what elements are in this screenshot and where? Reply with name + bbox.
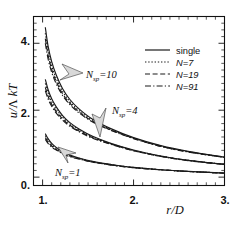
x-axis-title: r/D: [166, 203, 183, 217]
y-tick-labels: 4. 2. 0.: [21, 35, 30, 191]
x-tick-labels: 1. 2. 3.: [38, 194, 229, 206]
curve-nsp10-dashdot: [45, 43, 224, 157]
y-axis-title: u/Λ kT: [6, 83, 20, 118]
plot-frame: [34, 17, 225, 186]
y-axis-title-lambda: Λ: [6, 99, 20, 108]
y-axis-title-kt: kT: [6, 83, 20, 97]
legend-label-n91: N=91: [176, 82, 198, 92]
legend-label-single: single: [176, 46, 200, 56]
arrow-nsp1: [58, 147, 76, 163]
legend: single N=7 N=19 N=91: [145, 46, 200, 92]
arrow-nsp10: [60, 64, 83, 80]
annotation-nsp1: Nsp=1: [54, 167, 81, 181]
y-tick-label: 2.: [21, 107, 30, 119]
svg-text:u/Λ kT: u/Λ kT: [6, 83, 20, 118]
chart-figure: 4. 2. 0. 1. 2. 3. u/Λ kT r/D single N=7 …: [0, 0, 236, 228]
y-tick-label: 4.: [21, 35, 30, 47]
annotation-nsp4: Nsp=4: [111, 105, 138, 119]
legend-label-n19: N=19: [176, 70, 198, 80]
x-tick-label: 3.: [220, 194, 229, 206]
legend-label-n7: N=7: [176, 58, 194, 68]
y-tick-label: 0.: [21, 179, 30, 191]
plot-svg: 4. 2. 0. 1. 2. 3. u/Λ kT r/D single N=7 …: [0, 0, 236, 228]
x-tick-label: 1.: [38, 194, 47, 206]
x-tick-label: 2.: [129, 194, 138, 206]
annotation-nsp10: Nsp=10: [85, 69, 118, 83]
x-axis-ticks: [34, 17, 225, 186]
